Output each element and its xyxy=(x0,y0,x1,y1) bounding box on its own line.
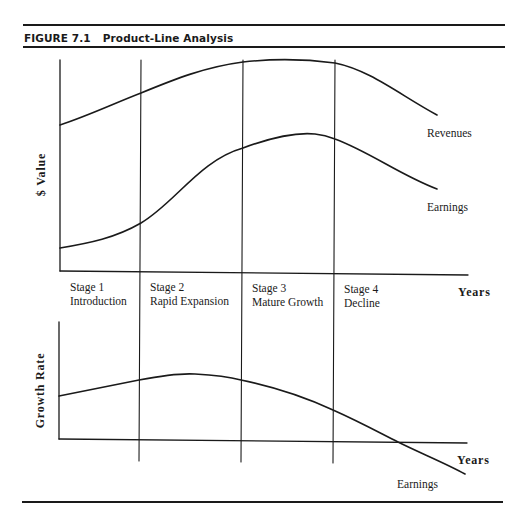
earnings-curve-top xyxy=(60,134,437,248)
top-x-axis-label: Years xyxy=(458,285,491,300)
top-y-axis-label: $ Value xyxy=(34,150,49,200)
earnings-label-bottom: Earnings xyxy=(397,478,438,490)
earnings-label-top: Earnings xyxy=(427,201,468,213)
growth-rate-earnings-curve xyxy=(59,374,465,474)
stage-4-desc: Decline xyxy=(344,296,380,310)
stage-4-label: Stage 4 Decline xyxy=(344,282,380,310)
stage-3-label: Stage 3 Mature Growth xyxy=(252,281,323,309)
stage-divider-2 xyxy=(139,60,141,461)
revenues-label: Revenues xyxy=(427,127,472,139)
revenues-curve xyxy=(60,60,437,125)
bottom-y-axis-label: Growth Rate xyxy=(33,346,48,436)
stage-divider-4 xyxy=(333,60,335,463)
stage-1-name: Stage 1 xyxy=(70,280,127,294)
stage-1-desc: Introduction xyxy=(70,294,127,308)
stage-1-label: Stage 1 Introduction xyxy=(70,280,127,308)
stage-2-desc: Rapid Expansion xyxy=(150,294,229,308)
stage-4-name: Stage 4 xyxy=(344,282,380,296)
stage-3-desc: Mature Growth xyxy=(252,295,323,309)
stage-2-name: Stage 2 xyxy=(150,280,229,294)
top-x-axis xyxy=(60,271,468,275)
stage-divider-3 xyxy=(241,60,243,462)
stage-2-label: Stage 2 Rapid Expansion xyxy=(150,280,229,308)
product-line-chart xyxy=(0,0,529,525)
footer-rule xyxy=(22,501,503,503)
stage-3-name: Stage 3 xyxy=(252,281,323,295)
bottom-x-axis xyxy=(59,439,467,443)
bottom-x-axis-label: Years xyxy=(457,453,490,468)
